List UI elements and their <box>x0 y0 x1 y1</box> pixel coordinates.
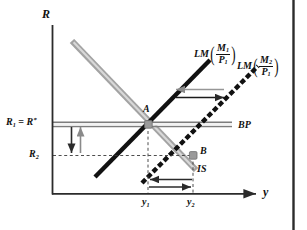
curve-label-lm2-name: LM <box>237 61 252 71</box>
isml-bp-diagram: R y R1 = R* R2 y1 y2 A B IS BP LM ( M1 P… <box>0 0 307 230</box>
annotation-output-arrows <box>149 180 192 188</box>
lm1-paren-open: ( <box>210 44 214 65</box>
xtick-y1-sub: 1 <box>146 201 149 208</box>
ytick-label-R1: R1 = R* <box>6 117 37 128</box>
lm2-numerator: M2 <box>259 55 273 65</box>
curve-label-lm1-name: LM <box>194 49 209 59</box>
point-label-A: A <box>143 104 150 114</box>
ytick-R1-eq: = <box>16 116 27 127</box>
lm2-paren-open: ( <box>253 56 257 77</box>
lm2-fraction: M2 P1 <box>259 55 273 78</box>
lm1-denominator: P1 <box>217 55 228 65</box>
annotation-lm-shift-arrows <box>176 90 224 98</box>
point-marker-A <box>145 121 153 129</box>
y-axis-label: R <box>42 8 50 20</box>
curve-label-lm2: LM ( M2 P1 ) <box>237 55 280 78</box>
xtick-label-y2: y2 <box>187 197 195 208</box>
curve-label-bp: BP <box>238 120 251 130</box>
lm1-paren-close: ) <box>231 44 235 65</box>
dashed-guides <box>53 131 193 193</box>
curve-is <box>72 41 196 170</box>
curve-label-lm1: LM ( M1 P1 ) <box>194 43 237 66</box>
ytick-R1-sup: * <box>33 116 37 124</box>
ytick-R1-text: R <box>6 116 13 127</box>
diagram-canvas <box>0 0 307 230</box>
point-label-B: B <box>200 146 207 156</box>
annotation-rate-arrows <box>72 127 81 153</box>
ytick-label-R2: R2 <box>29 149 39 160</box>
lm2-denominator: P1 <box>260 67 271 77</box>
ytick-R2-sub: 2 <box>36 153 39 160</box>
lm1-numerator: M1 <box>216 43 230 53</box>
xtick-y2-sub: 2 <box>191 201 194 208</box>
curve-bp <box>52 122 232 126</box>
lm1-fraction: M1 P1 <box>216 43 230 66</box>
curve-label-is: IS <box>197 164 206 174</box>
x-axis-label: y <box>263 186 268 198</box>
xtick-label-y1: y1 <box>142 197 150 208</box>
point-marker-B <box>189 152 197 160</box>
lm2-paren-close: ) <box>274 56 278 77</box>
ytick-R2-text: R <box>29 148 36 159</box>
